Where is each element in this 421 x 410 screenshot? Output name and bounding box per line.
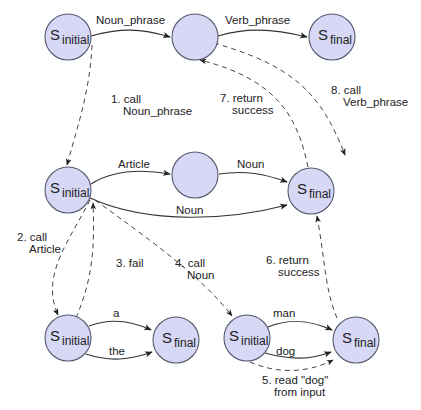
state-subscript: final: [309, 187, 331, 201]
step-7-line1: 7. return: [220, 92, 263, 104]
step-4-line1: 4. call: [175, 257, 205, 269]
parse-trace-diagram: S initial S final S initial S final S in…: [0, 0, 421, 410]
label-the: the: [109, 345, 125, 357]
label-a: a: [113, 307, 120, 319]
edge-noun-upper: [219, 172, 287, 182]
step-5-line2: from input: [274, 386, 326, 398]
state-symbol: S: [318, 26, 328, 43]
edge-noun-phrase: [91, 30, 170, 37]
step-6-return-success: [317, 216, 337, 318]
state-node-top-middle: [172, 14, 218, 60]
label-noun-lower: Noun: [176, 204, 204, 216]
label-noun-phrase: Noun_phrase: [96, 14, 165, 26]
edge-article: [91, 171, 170, 184]
state-symbol: S: [162, 329, 172, 346]
state-node-np-final: S final: [288, 168, 334, 214]
state-symbol: S: [229, 327, 239, 344]
state-subscript: initial: [62, 186, 89, 200]
state-subscript: initial: [62, 33, 89, 47]
step-6-line2: success: [278, 266, 320, 278]
state-symbol: S: [50, 179, 60, 196]
state-nodes: S initial S final S initial S final S in…: [45, 14, 379, 363]
state-subscript: initial: [62, 334, 89, 348]
edge-man: [268, 321, 332, 330]
step-5-line1: 5. read "dog": [262, 374, 328, 386]
state-node-article-final: S final: [153, 317, 199, 363]
label-verb-phrase: Verb_phrase: [225, 14, 290, 26]
edge-verb-phrase: [218, 30, 307, 37]
state-subscript: initial: [241, 334, 268, 348]
step-5-read-dog: [250, 360, 333, 370]
state-symbol: S: [50, 26, 60, 43]
label-dog: dog: [276, 345, 295, 357]
label-article: Article: [118, 158, 150, 170]
step-6-line1: 6. return: [266, 254, 309, 266]
step-7-line2: success: [232, 104, 274, 116]
state-node-top-final: S final: [309, 14, 355, 60]
state-node-article-initial: S initial: [45, 315, 91, 361]
step-1-line2: Noun_phrase: [123, 105, 192, 117]
edge-a: [89, 321, 151, 330]
state-subscript: final: [354, 336, 376, 350]
step-1-call-noun-phrase: [67, 45, 92, 165]
state-symbol: S: [50, 327, 60, 344]
step-2-call-article: [52, 200, 90, 315]
state-symbol: S: [342, 329, 352, 346]
state-node-np-initial: S initial: [45, 167, 91, 213]
step-3-fail: [76, 203, 94, 318]
state-subscript: final: [174, 336, 196, 350]
step-2-line2: Article: [29, 243, 61, 255]
state-node-np-middle: [172, 152, 218, 198]
state-symbol: S: [297, 180, 307, 197]
step-8-line1: 8. call: [331, 84, 361, 96]
step-2-line1: 2. call: [17, 231, 47, 243]
label-noun-upper: Noun: [237, 158, 265, 170]
state-node-noun-initial: S initial: [224, 315, 270, 361]
state-node-top-initial: S initial: [45, 14, 91, 60]
step-8-line2: Verb_phrase: [343, 96, 408, 108]
state-node-noun-final: S final: [333, 317, 379, 363]
edge-dog: [265, 352, 331, 358]
step-1-line1: 1. call: [111, 93, 141, 105]
label-man: man: [273, 307, 295, 319]
state-subscript: final: [330, 33, 352, 47]
step-3-label: 3. fail: [116, 257, 144, 269]
step-4-line2: Noun: [187, 269, 215, 281]
